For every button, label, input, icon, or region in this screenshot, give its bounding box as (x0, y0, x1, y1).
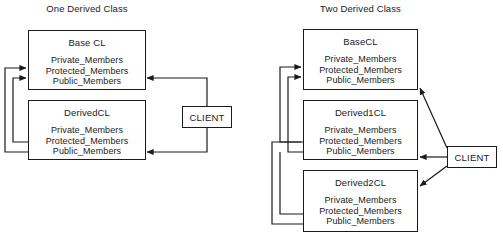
panel-title-two-derived-class: Two Derived Class (303, 3, 418, 14)
member-public: Public_Members (29, 76, 145, 87)
member-protected: Protected_Members (304, 206, 417, 217)
connector-client-to-derived2cl (420, 166, 447, 186)
connector-derived1cl-to-basecl-inner (288, 77, 303, 152)
connector-client-to-basecl-2 (420, 88, 447, 148)
connector-derivedcl-to-basecl-inner (13, 78, 28, 142)
class-name-derived1-cl: Derived1CL (304, 107, 417, 118)
class-box-base-cl[interactable]: Base CL Private_Members Protected_Member… (28, 30, 146, 90)
class-name-base-cl: Base CL (29, 37, 145, 48)
member-protected: Protected_Members (29, 136, 145, 147)
connector-client-to-derivedcl (147, 128, 207, 152)
member-public: Public_Members (29, 146, 145, 157)
member-private: Private_Members (304, 125, 417, 136)
class-name-base-cl-2: BaseCL (304, 36, 417, 47)
class-box-base-cl-2[interactable]: BaseCL Private_Members Protected_Members… (303, 29, 418, 90)
member-list-base-cl: Private_Members Protected_Members Public… (29, 55, 145, 87)
member-list-base-cl-2: Private_Members Protected_Members Public… (304, 54, 417, 86)
class-box-derived2-cl[interactable]: Derived2CL Private_Members Protected_Mem… (303, 170, 418, 232)
connector-derived2cl-to-derived1cl-outer (272, 142, 303, 224)
member-list-derived2-cl: Private_Members Protected_Members Public… (304, 195, 417, 227)
diagram-canvas: One Derived Class Base CL Private_Member… (0, 0, 503, 245)
class-name-derived-cl: DerivedCL (29, 107, 145, 118)
member-public: Public_Members (304, 146, 417, 157)
member-private: Private_Members (29, 125, 145, 136)
member-private: Private_Members (29, 55, 145, 66)
connector-derived1cl-to-basecl-outer (280, 67, 303, 142)
member-protected: Protected_Members (304, 65, 417, 76)
class-box-derived1-cl[interactable]: Derived1CL Private_Members Protected_Mem… (303, 100, 418, 160)
panel-title-one-derived-class: One Derived Class (28, 3, 146, 14)
member-public: Public_Members (304, 216, 417, 227)
member-private: Private_Members (304, 54, 417, 65)
member-protected: Protected_Members (304, 136, 417, 147)
member-list-derived-cl: Private_Members Protected_Members Public… (29, 125, 145, 157)
actor-box-client-left[interactable]: CLIENT (182, 106, 232, 128)
member-list-derived1-cl: Private_Members Protected_Members Public… (304, 125, 417, 157)
class-box-derived-cl[interactable]: DerivedCL Private_Members Protected_Memb… (28, 100, 146, 160)
member-public: Public_Members (304, 75, 417, 86)
member-protected: Protected_Members (29, 66, 145, 77)
actor-box-client-right[interactable]: CLIENT (447, 146, 497, 168)
member-private: Private_Members (304, 195, 417, 206)
connector-derived2cl-to-derived1cl-inner (280, 152, 303, 214)
class-name-derived2-cl: Derived2CL (304, 177, 417, 188)
connector-derivedcl-to-basecl-outer (5, 68, 28, 152)
